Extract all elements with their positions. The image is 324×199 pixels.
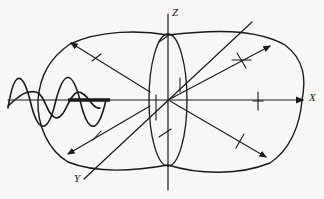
x-axis-label: X — [308, 91, 317, 103]
radiation-pattern-diagram: Z X Y — [0, 0, 324, 199]
radiation-arrow-upper-left — [71, 43, 150, 92]
y-axis-label: Y — [74, 172, 82, 184]
z-axis-label: Z — [172, 6, 179, 18]
radiation-arrow-lower-left — [68, 106, 150, 154]
incident-wave-2 — [8, 92, 100, 118]
radiation-arrow-lower-right — [170, 101, 266, 157]
